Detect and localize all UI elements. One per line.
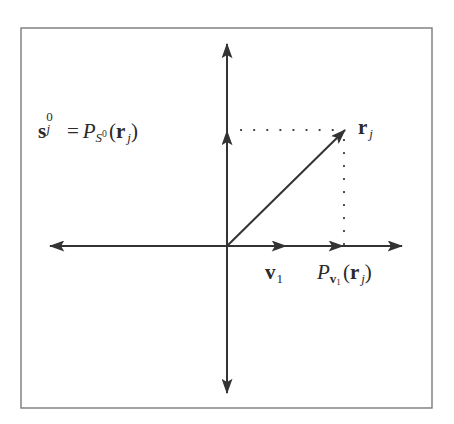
symbol-r: r bbox=[116, 119, 125, 143]
r-subscript: j bbox=[369, 126, 373, 141]
symbol-v: v bbox=[265, 260, 276, 284]
p-subscript: S0 bbox=[96, 130, 107, 145]
s-subscript: j bbox=[46, 122, 50, 135]
diagram-canvas bbox=[0, 0, 454, 424]
label-v1: v1 bbox=[265, 262, 283, 283]
vector-r-j bbox=[227, 130, 345, 246]
equals-sign: = bbox=[67, 119, 79, 143]
label-r-j: rj bbox=[358, 117, 373, 138]
label-s-j0-equation: s0j =PS0(rj) bbox=[38, 117, 138, 142]
symbol-p: P bbox=[317, 260, 330, 284]
r-subscript: j bbox=[361, 271, 365, 286]
close-paren: ) bbox=[365, 260, 372, 284]
p-subscript: v1 bbox=[330, 271, 341, 286]
open-paren: ( bbox=[343, 260, 350, 284]
symbol-p: P bbox=[83, 119, 96, 143]
r-subscript: j bbox=[127, 130, 131, 145]
v-subscript: 1 bbox=[277, 271, 284, 286]
label-p-v1-rj: Pv1(rj) bbox=[317, 262, 372, 283]
close-paren: ) bbox=[131, 119, 138, 143]
s-sup-sub: 0j bbox=[46, 117, 55, 138]
projection-diagram: s0j =PS0(rj) rj v1 Pv1(rj) bbox=[0, 0, 454, 424]
open-paren: ( bbox=[109, 119, 116, 143]
symbol-r: r bbox=[358, 115, 367, 139]
symbol-r: r bbox=[350, 260, 359, 284]
symbol-s: s bbox=[38, 119, 46, 143]
